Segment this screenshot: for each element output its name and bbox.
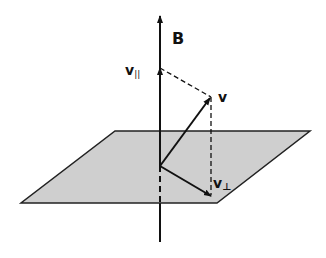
b-field-label: B	[172, 29, 184, 48]
diagram-canvas: B v v|| v⊥	[0, 0, 326, 258]
v-parallel-subscript: ||	[134, 69, 140, 79]
v-parallel-label: v||	[125, 62, 140, 79]
parallel-projection-dashed	[160, 68, 211, 97]
perpendicular-plane	[21, 131, 310, 203]
v-perp-subscript: ⊥	[222, 181, 231, 192]
velocity-label: v	[218, 89, 227, 105]
